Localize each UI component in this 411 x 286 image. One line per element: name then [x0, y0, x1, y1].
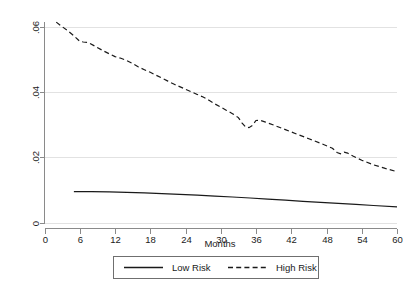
- chart-figure: 0.02.04.06 06121824303642485460 Months L…: [0, 0, 411, 286]
- y-tick-label-3: .06: [30, 21, 41, 34]
- x-tick-label-7: 42: [286, 234, 297, 245]
- y-tick-label-1: .02: [30, 151, 41, 164]
- x-axis-title: Months: [204, 238, 235, 249]
- x-tick-label-3: 18: [145, 234, 156, 245]
- x-tick-label-4: 24: [181, 234, 192, 245]
- x-tick-label-8: 48: [322, 234, 333, 245]
- x-tick-label-9: 54: [357, 234, 368, 245]
- x-tick-label-10: 60: [392, 234, 403, 245]
- legend-label-high-risk: High Risk: [276, 262, 317, 273]
- chart-legend: Low Risk High Risk: [114, 257, 319, 279]
- x-tick-label-0: 0: [43, 234, 48, 245]
- x-tick-label-1: 6: [78, 234, 83, 245]
- x-tick-label-2: 12: [110, 234, 121, 245]
- legend-label-low-risk: Low Risk: [172, 262, 211, 273]
- x-tick-label-6: 36: [251, 234, 262, 245]
- y-tick-label-0: 0: [30, 221, 41, 226]
- line-chart: 0.02.04.06 06121824303642485460 Months L…: [0, 0, 411, 286]
- y-tick-label-2: .04: [30, 86, 41, 99]
